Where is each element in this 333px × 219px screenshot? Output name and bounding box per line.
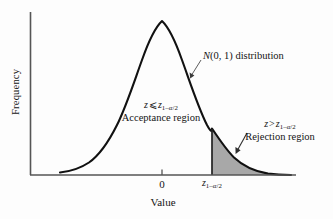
distribution-symbol: N: [203, 50, 210, 61]
y-axis-title: Frequency: [10, 60, 22, 124]
acceptance-region-text: Acceptance region: [109, 112, 213, 124]
rejection-bound-subscript: 1–α/2: [280, 123, 296, 130]
x-tick-label-zero: 0: [144, 178, 180, 190]
rejection-relation: >: [268, 118, 276, 129]
normal-distribution-figure: Frequency Value 0 z1–α/2 N(0, 1) distrib…: [0, 0, 333, 219]
acceptance-condition: z⩽z1–α/2: [109, 99, 213, 112]
normal-curve: [60, 21, 291, 175]
distribution-leader-line: [191, 60, 201, 76]
acceptance-region-callout: z⩽z1–α/2 Acceptance region: [109, 99, 213, 123]
x-axis-title: Value: [120, 196, 206, 208]
acceptance-sub-half: /2: [172, 104, 178, 111]
rejection-region-text: Rejection region: [232, 131, 328, 143]
rejection-sub-half: /2: [290, 123, 296, 130]
distribution-params: (0, 1) distribution: [210, 50, 284, 61]
rejection-arrowhead-icon: [235, 147, 240, 154]
rejection-condition: z>z1–α/2: [232, 118, 328, 131]
distribution-callout-label: N(0, 1) distribution: [203, 50, 284, 62]
distribution-arrowhead-icon: [190, 72, 195, 78]
critical-tick-sub-half: /2: [217, 182, 223, 189]
rejection-region-callout: z>z1–α/2 Rejection region: [232, 118, 328, 142]
acceptance-relation: ⩽: [148, 99, 158, 110]
x-tick-label-critical: z1–α/2: [188, 177, 236, 190]
acceptance-bound-subscript: 1–α/2: [162, 104, 178, 111]
critical-tick-subscript: 1–α/2: [206, 182, 222, 189]
